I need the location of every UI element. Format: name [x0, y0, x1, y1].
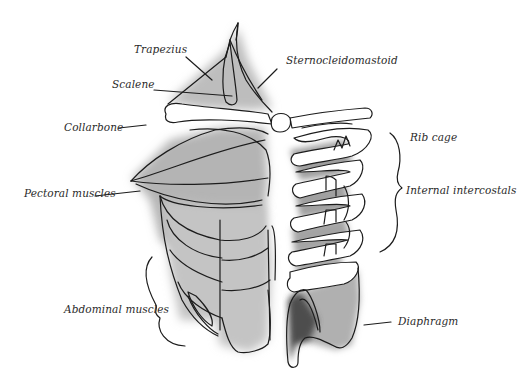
label-internal-intercostals: Internal intercostals [406, 185, 517, 196]
label-abdominal-muscles: Abdominal muscles [64, 304, 169, 315]
right-collarbone [290, 108, 372, 128]
label-pectoral-muscles: Pectoral muscles [24, 188, 116, 199]
label-sternocleidomastoid: Sternocleidomastoid [286, 55, 398, 66]
label-diaphragm: Diaphragm [398, 316, 458, 327]
label-trapezius: Trapezius [134, 44, 187, 55]
rib-cage-brace [380, 133, 402, 252]
sternum-top [271, 114, 290, 133]
label-scalene: Scalene [112, 79, 155, 90]
label-collarbone: Collarbone [64, 122, 123, 133]
anatomy-diagram: Trapezius Scalene Sternocleidomastoid Co… [0, 0, 519, 383]
label-rib-cage: Rib cage [410, 132, 457, 143]
